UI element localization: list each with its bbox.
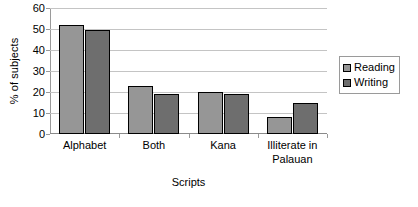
y-axis-tick-mark xyxy=(46,71,50,72)
bar-writing-alphabet[interactable] xyxy=(85,30,110,134)
bar-writing-kana[interactable] xyxy=(224,94,249,134)
y-axis-tick-mark xyxy=(46,8,50,9)
bar-chart: % of subjects 0102030405060 AlphabetBoth… xyxy=(0,0,418,207)
bar-reading-illiterate-in-palauan[interactable] xyxy=(267,117,292,134)
bar-reading-both[interactable] xyxy=(128,86,153,134)
legend-item-label: Reading xyxy=(354,62,395,73)
y-axis-tick-labels: 0102030405060 xyxy=(22,8,48,134)
x-axis-category-label-line: Alphabet xyxy=(50,138,119,152)
y-axis-tick-label: 30 xyxy=(33,66,45,77)
x-axis-tick-mark xyxy=(327,134,328,138)
bar-group xyxy=(59,8,110,134)
y-axis-tick-mark xyxy=(46,113,50,114)
bar-reading-alphabet[interactable] xyxy=(59,25,84,134)
y-axis-tick-label: 10 xyxy=(33,108,45,119)
x-axis-category-label: Both xyxy=(119,138,188,152)
bar-group xyxy=(128,8,179,134)
plot-area xyxy=(50,8,327,134)
legend-item-reading[interactable]: Reading xyxy=(343,60,395,75)
x-axis-title: Scripts xyxy=(50,176,327,188)
bar-group xyxy=(198,8,249,134)
y-axis-tick-label: 60 xyxy=(33,3,45,14)
y-axis-tick-mark xyxy=(46,29,50,30)
x-axis-category-labels: AlphabetBothKanaIlliterate inPalauan xyxy=(50,138,327,172)
bar-writing-both[interactable] xyxy=(154,94,179,134)
legend-item-writing[interactable]: Writing xyxy=(343,75,395,90)
y-axis-tick-label: 0 xyxy=(39,129,45,140)
y-axis-tick-mark xyxy=(46,50,50,51)
legend: ReadingWriting xyxy=(339,56,400,94)
x-axis-category-label-line: Kana xyxy=(189,138,258,152)
y-axis-tick-mark xyxy=(46,134,50,135)
y-axis-tick-mark xyxy=(46,92,50,93)
bar-writing-illiterate-in-palauan[interactable] xyxy=(293,103,318,135)
y-axis-title-text: % of subjects xyxy=(8,38,20,105)
x-axis-category-label-line: Illiterate in xyxy=(258,138,327,152)
y-axis-tick-label: 50 xyxy=(33,24,45,35)
writing-swatch xyxy=(343,79,351,87)
reading-swatch xyxy=(343,64,351,72)
x-axis-category-label: Illiterate inPalauan xyxy=(258,138,327,166)
x-axis-category-label-line: Both xyxy=(119,138,188,152)
legend-item-label: Writing xyxy=(354,77,388,88)
x-axis-category-label: Kana xyxy=(189,138,258,152)
x-axis-category-label-line: Palauan xyxy=(258,152,327,166)
x-axis-category-label: Alphabet xyxy=(50,138,119,152)
y-axis-tick-label: 20 xyxy=(33,87,45,98)
y-axis-tick-label: 40 xyxy=(33,45,45,56)
bar-reading-kana[interactable] xyxy=(198,92,223,134)
bar-group xyxy=(267,8,318,134)
